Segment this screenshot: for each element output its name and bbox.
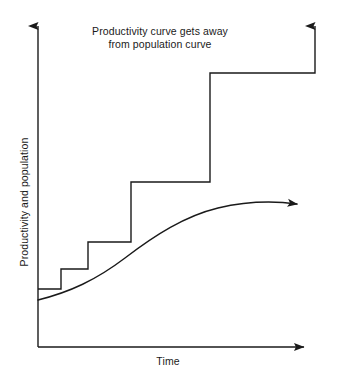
annotation-line-1: Productivity curve gets away — [70, 25, 250, 38]
y-axis-label: Productivity and population — [18, 122, 30, 282]
x-axis-label: Time — [128, 355, 208, 367]
productivity-step-curve — [38, 26, 315, 289]
population-smooth-curve — [38, 202, 297, 300]
chart-canvas — [0, 0, 338, 380]
figure-container: Productivity curve gets away from popula… — [0, 0, 338, 380]
chart-annotation: Productivity curve gets away from popula… — [70, 25, 250, 51]
annotation-line-2: from population curve — [70, 38, 250, 51]
